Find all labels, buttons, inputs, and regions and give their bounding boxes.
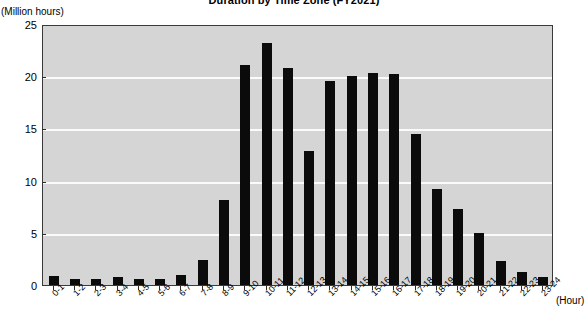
bar-slot: [320, 26, 341, 285]
bar-slot: [299, 26, 320, 285]
bar: [368, 73, 378, 285]
y-axis-tick-label: 25: [6, 20, 37, 31]
bar: [347, 76, 357, 285]
chart-title: Duration by Time Zone (FY2021): [0, 0, 588, 6]
y-axis-tick-mark: [42, 77, 46, 78]
bar: [304, 151, 314, 285]
bar-slot: [341, 26, 362, 285]
bar-slot: [533, 26, 554, 285]
y-axis-tick-label: 15: [6, 124, 37, 135]
bar-slot: [192, 26, 213, 285]
bar-slot: [256, 26, 277, 285]
bar-slot: [43, 26, 64, 285]
bar-slot: [277, 26, 298, 285]
bar-slot: [235, 26, 256, 285]
bar-slot: [511, 26, 532, 285]
bar-slot: [469, 26, 490, 285]
bar: [219, 200, 229, 285]
bar: [240, 65, 250, 285]
bar: [325, 81, 335, 285]
y-axis-tick-label: 20: [6, 72, 37, 83]
bar: [262, 43, 272, 285]
x-axis-labels: 0-11-22-33-44-55-66-77-88-99-1010-1111-1…: [42, 291, 553, 325]
bar-slot: [213, 26, 234, 285]
bar: [453, 209, 463, 285]
bar: [432, 189, 442, 285]
bar: [198, 260, 208, 285]
plot-area: [42, 25, 553, 286]
bar-chart: Duration by Time Zone (FY2021) (Million …: [0, 0, 588, 325]
bar: [283, 68, 293, 285]
bar-slot: [384, 26, 405, 285]
y-axis-tick-label: 5: [6, 229, 37, 240]
y-axis-tick-mark: [42, 234, 46, 235]
y-axis-tick-label: 10: [6, 177, 37, 188]
bar-slot: [448, 26, 469, 285]
bar: [389, 74, 399, 285]
y-axis-tick-label: 0: [6, 281, 37, 292]
x-axis-unit-label: (Hour): [556, 295, 584, 306]
y-axis-tick-mark: [42, 182, 46, 183]
bar-slot: [490, 26, 511, 285]
bar-slot: [64, 26, 85, 285]
bar-slot: [171, 26, 192, 285]
bar-slot: [107, 26, 128, 285]
bar-slot: [405, 26, 426, 285]
bar-slot: [128, 26, 149, 285]
bar-slot: [426, 26, 447, 285]
bar: [474, 233, 484, 285]
y-axis-tick-mark: [42, 129, 46, 130]
y-axis-unit-label: (Million hours): [1, 6, 64, 18]
bar-series: [43, 26, 552, 285]
bar-slot: [149, 26, 170, 285]
bar-slot: [86, 26, 107, 285]
bar: [411, 134, 421, 285]
bar-slot: [362, 26, 383, 285]
